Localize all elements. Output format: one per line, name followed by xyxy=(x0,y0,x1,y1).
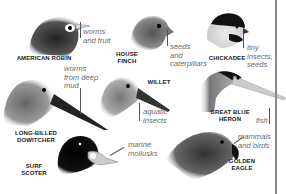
great-blue-heron-label: GREAT BLUE HERON xyxy=(210,109,250,123)
house-finch-diet: seeds and caterpillars xyxy=(170,43,207,69)
golden-eagle-label: GOLDEN EAGLE xyxy=(226,158,258,172)
long-billed-dowitcher-leader-line xyxy=(80,88,81,114)
american-robin-leader-line xyxy=(80,22,81,38)
golden-eagle-diet: mammals and birds xyxy=(238,133,271,150)
great-blue-heron-head-illustration xyxy=(196,68,286,112)
page-divider-line xyxy=(275,0,277,194)
surf-scoter-diet: marine mollusks xyxy=(128,141,158,158)
american-robin-label: AMERICAN ROBIN xyxy=(6,55,82,62)
american-robin-diet: worms and fruit xyxy=(83,28,110,45)
willet-diet: aquatic insects xyxy=(143,108,168,125)
long-billed-dowitcher-diet: worms from deep mud xyxy=(64,65,98,91)
great-blue-heron-diet: fish xyxy=(256,117,268,126)
willet-leader-line xyxy=(139,103,140,121)
great-blue-heron-leader-line xyxy=(269,108,270,124)
house-finch-label: HOUSE FINCH xyxy=(112,51,142,65)
willet-label: WILLET xyxy=(144,79,174,86)
chickadee-label: CHICKADEE xyxy=(208,55,246,62)
surf-scoter-label: SURF SCOTER xyxy=(16,163,52,177)
chickadee-leader-line xyxy=(243,34,244,48)
house-finch-leader-line xyxy=(167,30,168,46)
chickadee-diet: tiny insects, seeds xyxy=(247,44,273,70)
bird-diet-illustration: worms and fruit AMERICAN ROBIN HOUSE FIN… xyxy=(0,0,286,194)
long-billed-dowitcher-label: LONG-BILLED DOWITCHER xyxy=(14,130,58,144)
